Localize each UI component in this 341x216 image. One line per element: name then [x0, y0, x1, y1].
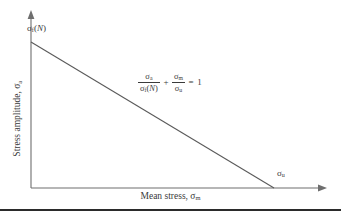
- fraction-two-denominator: σu: [173, 83, 184, 93]
- x-axis-title-text: Mean stress, σm: [140, 191, 200, 201]
- equation-fraction-one: σa σf(N): [138, 72, 160, 92]
- equation-fraction-two: σm σu: [172, 72, 185, 92]
- x-axis-title: Mean stress, σm: [0, 192, 341, 202]
- equation-equals-operator: =: [188, 78, 195, 87]
- equation-plus-operator: +: [162, 78, 169, 87]
- sigma-f-label: σf(N): [27, 24, 46, 33]
- plot-area: [0, 0, 341, 216]
- goodman-equation: σa σf(N) + σm σu = 1: [138, 72, 202, 92]
- fraction-two-numerator: σm: [172, 72, 185, 82]
- y-axis-arrowhead: [28, 10, 35, 19]
- y-axis-title-text: Stress amplitude, σa: [12, 81, 22, 157]
- goodman-diagram-figure: σf(N) σu σa σf(N) + σm σu = 1 Mean stres…: [0, 0, 341, 216]
- sigma-u-label: σu: [277, 169, 285, 178]
- goodman-line: [31, 42, 274, 188]
- sigma-u-text: σu: [277, 168, 285, 178]
- sigma-f-text: σf(N): [27, 23, 46, 33]
- x-axis-arrowhead: [318, 185, 327, 192]
- y-axis-title: Stress amplitude, σa: [13, 49, 23, 189]
- fraction-one-numerator: σa: [143, 72, 154, 82]
- equation-right-hand-side: 1: [197, 78, 202, 87]
- fraction-one-denominator: σf(N): [138, 83, 160, 93]
- bottom-divider-rule: [0, 209, 341, 211]
